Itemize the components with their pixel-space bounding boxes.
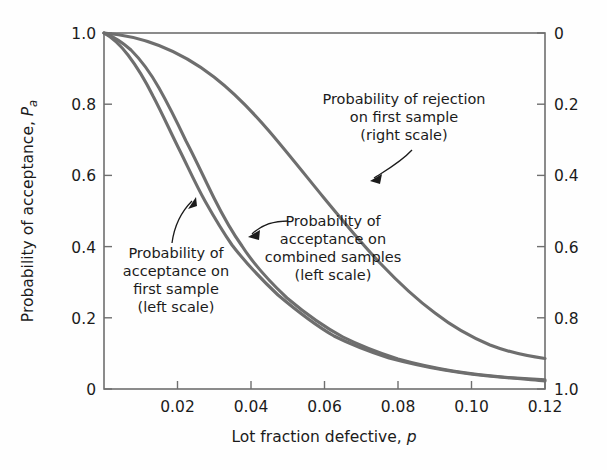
curve-acceptance-first-sample [104,33,545,381]
bottom-tick-label-4: 0.08 [381,398,416,416]
oc-curve-chart: 1.0 0.8 0.6 0.4 0.2 0 0 0.2 0.4 0.6 0.8 … [0,0,607,470]
left-axis-ticks [104,33,112,389]
right-tick-label-1: 0 [554,25,564,43]
bottom-tick-label-1: 0.02 [160,398,195,416]
annotation-rejection-leader-line [374,150,412,178]
curve-acceptance-combined-samples [104,33,545,380]
annotation-combined-line-1: Probability of [285,213,381,229]
right-tick-label-4: 0.6 [554,239,579,257]
svg-text:Probability of acceptance, Pa: Probability of acceptance, Pa [19,100,40,322]
right-tick-label-2: 0.2 [554,96,579,114]
annotation-rejection-line-3: (right scale) [360,127,447,143]
plot-frame [104,33,545,389]
annotation-first-line-4: (left scale) [138,299,215,315]
annotation-first-leader-line [172,201,192,243]
annotation-first-line-1: Probability of [128,245,224,261]
annotation-rejection-line-2: on first sample [350,109,458,125]
x-axis-title-text: Lot fraction defective, [232,428,407,446]
bottom-tick-label-6: 0.12 [528,398,563,416]
y-axis-title: Probability of acceptance, Pa [19,100,40,322]
left-tick-label-1: 1.0 [71,25,96,43]
bottom-tick-label-2: 0.04 [234,398,269,416]
left-tick-label-5: 0.2 [71,310,96,328]
left-tick-label-2: 0.8 [71,96,96,114]
left-tick-label-4: 0.4 [71,239,96,257]
x-axis-title-symbol: p [406,428,417,446]
y-axis-title-subscript: a [26,100,40,107]
annotation-combined-line-4: (left scale) [295,267,372,283]
annotation-first-line-2: acceptance on [123,263,229,279]
bottom-tick-label-5: 0.10 [454,398,489,416]
right-tick-label-5: 0.8 [554,310,579,328]
right-tick-label-3: 0.4 [554,167,579,185]
right-tick-label-6: 1.0 [554,381,579,399]
x-axis-title: Lot fraction defective, p [232,428,417,446]
annotation-combined-line-3: combined samples [265,249,401,265]
left-tick-label-6: 0 [86,381,96,399]
annotation-combined-line-2: acceptance on [280,231,386,247]
annotation-first-line-3: first sample [133,281,219,297]
right-axis-ticks [537,33,545,389]
annotation-rejection-arrowhead [370,174,382,184]
annotation-rejection-first-sample: Probability of rejection on first sample… [322,91,485,184]
bottom-axis-ticks [178,381,546,389]
annotation-rejection-line-1: Probability of rejection [322,91,485,107]
y-axis-title-text: Probability of acceptance, [19,116,37,322]
left-tick-label-3: 0.6 [71,167,96,185]
figure-container: 1.0 0.8 0.6 0.4 0.2 0 0 0.2 0.4 0.6 0.8 … [0,0,607,470]
bottom-tick-label-3: 0.06 [307,398,342,416]
annotation-acceptance-combined: Probability of acceptance on combined sa… [248,213,401,283]
